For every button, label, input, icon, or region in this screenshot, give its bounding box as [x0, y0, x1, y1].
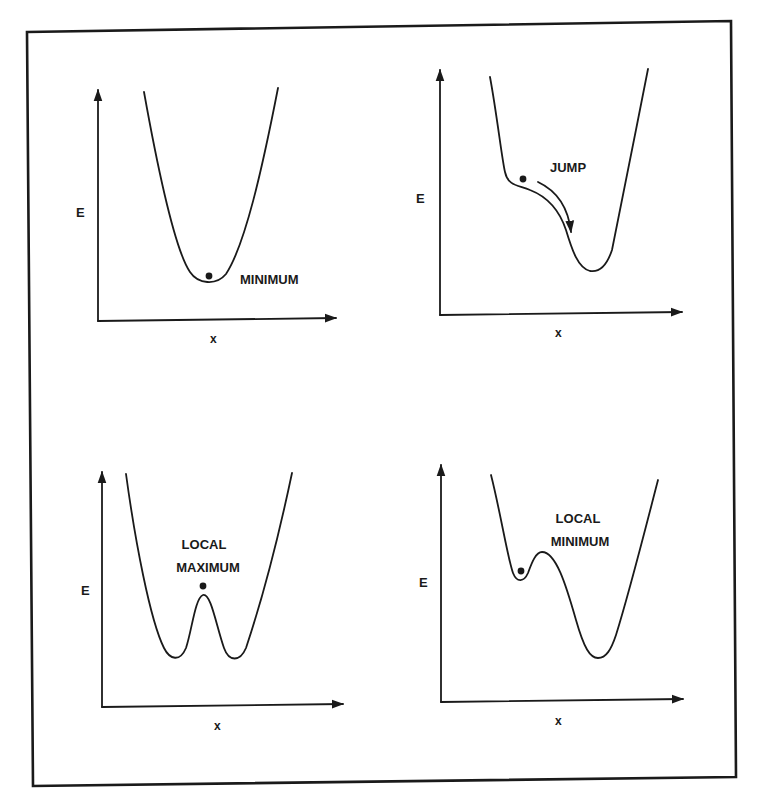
annotation-label: JUMP: [550, 160, 586, 175]
energy-landscape-figure: MINIMUM E x JUMP E x LOCAL MAXIMUM E x L…: [0, 0, 758, 804]
annotation-label-line2: MAXIMUM: [176, 560, 240, 575]
x-axis-label: x: [210, 332, 217, 346]
panel-jump: JUMP E x: [416, 69, 682, 340]
panel-minimum: MINIMUM E x: [76, 88, 336, 346]
annotation-label-line2: MINIMUM: [551, 534, 610, 549]
annotation-label: MINIMUM: [240, 272, 299, 287]
figure-frame: [27, 21, 736, 786]
ball-icon: [520, 176, 527, 183]
y-axis-label: E: [76, 205, 85, 220]
y-axis-label: E: [81, 583, 90, 598]
annotation-label-line1: LOCAL: [182, 537, 227, 552]
energy-curve: [491, 475, 658, 658]
x-axis-label: x: [214, 719, 221, 733]
annotation-label-line1: LOCAL: [556, 511, 601, 526]
panel-local-minimum: LOCAL MINIMUM E x: [419, 465, 683, 728]
ball-icon: [206, 273, 213, 280]
x-axis: [102, 704, 343, 707]
y-axis-label: E: [416, 191, 425, 206]
ball-icon: [200, 583, 207, 590]
ball-icon: [518, 568, 525, 575]
y-axis-label: E: [419, 575, 428, 590]
panel-local-maximum: LOCAL MAXIMUM E x: [81, 472, 343, 733]
x-axis-label: x: [555, 326, 562, 340]
energy-curve: [144, 88, 278, 282]
x-axis: [440, 312, 682, 315]
x-axis-label: x: [555, 714, 562, 728]
x-axis: [98, 318, 336, 321]
x-axis: [441, 699, 683, 702]
